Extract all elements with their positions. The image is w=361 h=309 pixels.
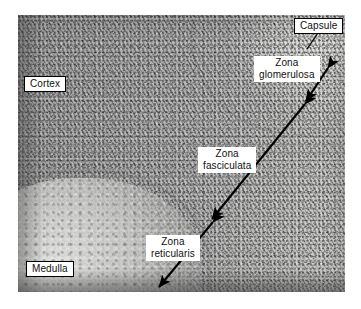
label-zona-glomerulosa: Zona glomerulosa — [254, 56, 320, 82]
label-zona-fasciculata: Zona fasciculata — [198, 147, 256, 173]
label-zona-reticularis: Zona reticularis — [146, 235, 200, 261]
figure-adrenal-gland-micrograph: Capsule Cortex Medulla Zona glomerulosa … — [0, 0, 361, 309]
label-cortex: Cortex — [24, 76, 66, 92]
label-capsule: Capsule — [294, 18, 343, 34]
label-medulla: Medulla — [26, 261, 74, 277]
